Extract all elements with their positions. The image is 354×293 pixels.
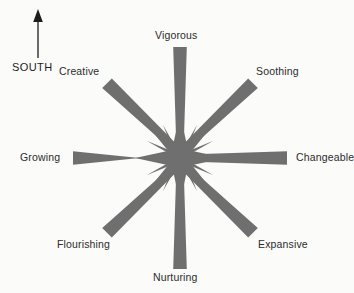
rose-label-soothing: Soothing [256, 66, 299, 77]
ray-southwest [102, 162, 182, 238]
ray-southeast [178, 162, 258, 238]
rose-label-vigorous: Vigorous [155, 30, 197, 41]
compass-direction-label: SOUTH [12, 62, 53, 73]
rose-label-changeable: Changeable [296, 152, 354, 163]
rose-label-flourishing: Flourishing [57, 239, 110, 250]
ray-northwest [102, 78, 182, 154]
rose-label-nurturing: Nurturing [153, 272, 198, 283]
rose-label-creative: Creative [59, 66, 99, 77]
rose-label-growing: Growing [20, 152, 60, 163]
center-star [135, 113, 225, 203]
compass-arrow [33, 9, 43, 58]
rose-label-expansive: Expansive [258, 239, 308, 250]
ray-northeast [178, 78, 258, 154]
compass-rose-diagram: SOUTH Vigorous Soothing Changeable Expan… [0, 0, 354, 293]
arrow-head-icon [33, 9, 43, 22]
